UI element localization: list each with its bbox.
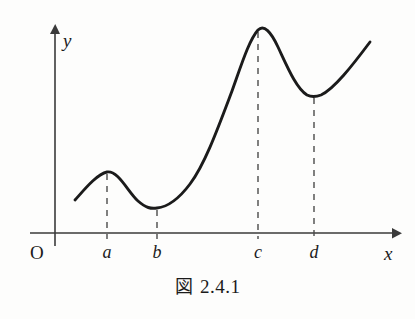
tick-label-c: c xyxy=(243,243,273,261)
origin-label: O xyxy=(30,243,44,262)
function-curve xyxy=(75,28,370,208)
figure-caption-prefix: 図 xyxy=(175,276,194,297)
x-axis-label: x xyxy=(384,244,392,263)
tick-label-d: d xyxy=(299,243,329,261)
figure-caption: 図2.4.1 xyxy=(0,272,415,298)
y-axis-label: y xyxy=(63,31,71,50)
figure-caption-number: 2.4.1 xyxy=(200,276,241,297)
figure-container: O x y a b c d 図2.4.1 xyxy=(0,0,415,319)
y-axis-arrowhead xyxy=(50,24,60,34)
tick-label-b: b xyxy=(142,243,172,261)
x-axis-arrowhead xyxy=(392,228,402,239)
tick-label-a: a xyxy=(92,243,122,261)
